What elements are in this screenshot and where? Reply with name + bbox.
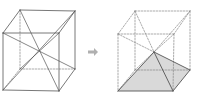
arrow-right-icon (88, 48, 98, 56)
diagram-canvas (0, 0, 199, 100)
pyramid-shaded-faces (118, 52, 190, 91)
cube-with-diagonals (3, 10, 75, 91)
cube-with-pyramid (118, 11, 190, 91)
